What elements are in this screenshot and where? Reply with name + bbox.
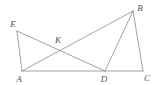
geometry-figure: E B K A D C [0,0,160,85]
vertex-label-k: K [55,36,61,45]
figure-canvas [0,0,160,85]
segment-bd [105,11,133,71]
vertex-label-c: C [144,74,150,83]
vertex-label-e: E [10,20,16,29]
vertex-label-b: B [137,4,143,13]
segment-ea [17,31,22,71]
segment-bc [133,11,143,71]
vertex-label-a: A [16,75,22,84]
vertex-label-d: D [101,75,108,84]
